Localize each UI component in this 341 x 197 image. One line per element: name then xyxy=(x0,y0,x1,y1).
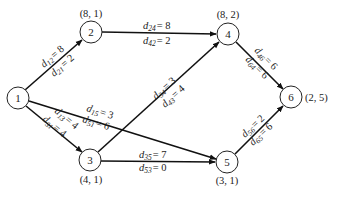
network-diagram: d12= 8 d21= 2 d13= 4 d31= 4 d15= 3 d51= … xyxy=(0,0,341,197)
edge-label-d53: d53= 0 xyxy=(139,162,167,175)
edge-label-d35: d35= 7 xyxy=(139,149,167,162)
node-4-coord: (8, 2) xyxy=(217,9,240,21)
node-5-coord: (3, 1) xyxy=(216,175,239,187)
edge-2-4 xyxy=(102,32,216,34)
node-6: 6 (2, 5) xyxy=(280,86,328,108)
node-3-coord: (4, 1) xyxy=(80,174,103,186)
svg-text:6: 6 xyxy=(288,91,294,103)
edge-label-d24: d24= 8 xyxy=(143,20,171,33)
node-6-coord: (2, 5) xyxy=(305,92,328,104)
svg-text:3: 3 xyxy=(87,154,93,166)
edge-label-d42: d42= 2 xyxy=(143,35,171,48)
node-2: 2 (8, 1) xyxy=(80,8,103,43)
svg-text:5: 5 xyxy=(224,156,230,168)
node-1: 1 xyxy=(7,87,29,109)
svg-text:1: 1 xyxy=(15,92,21,104)
svg-text:4: 4 xyxy=(225,28,231,40)
svg-text:2: 2 xyxy=(88,26,94,38)
node-2-coord: (8, 1) xyxy=(80,8,103,20)
node-3: 3 (4, 1) xyxy=(79,149,103,186)
node-4: 4 (8, 2) xyxy=(217,9,240,45)
edge-labels: d12= 8 d21= 2 d13= 4 d31= 4 d15= 3 d51= … xyxy=(38,20,280,175)
node-5: 5 (3, 1) xyxy=(216,151,239,187)
